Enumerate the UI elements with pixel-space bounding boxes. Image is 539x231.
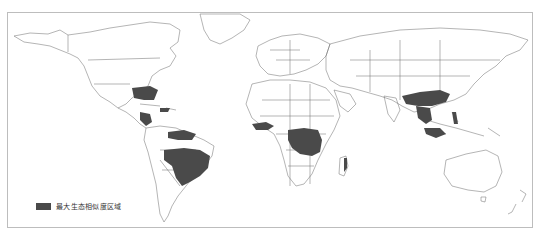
region-central-africa [288, 128, 322, 156]
legend-label: 最大生态相似度区域 [56, 201, 122, 211]
legend-swatch [36, 203, 51, 210]
region-indochina [416, 106, 432, 124]
country-outlines [14, 14, 528, 222]
greenland-outline [200, 14, 250, 44]
region-northern-south-america [168, 130, 196, 140]
map-legend: 最大生态相似度区域 [36, 201, 122, 211]
region-west-africa [252, 122, 274, 130]
region-philippines [452, 112, 458, 124]
region-central-america [140, 112, 152, 126]
region-amazon [164, 148, 210, 186]
region-se-usa [132, 86, 158, 100]
region-indonesia [424, 128, 446, 138]
europe-outline [256, 34, 330, 76]
region-southern-china [402, 90, 450, 106]
new-zealand-outline [508, 190, 526, 214]
australia-outline [444, 150, 502, 192]
world-map [0, 0, 539, 231]
highlight-regions [132, 86, 458, 186]
